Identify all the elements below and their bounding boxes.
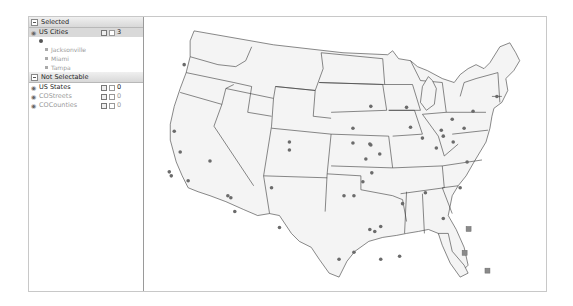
select-icon[interactable] [101,85,107,91]
layer-panel: Selected ◉ US Cities 3 Jacksonville Miam… [29,17,144,291]
layer-symbol [29,37,143,45]
us-states-layer [170,31,519,277]
feature-icon [45,57,48,60]
not-selectable-section-header[interactable]: Not Selectable [29,72,143,83]
feature-item[interactable]: Jacksonville [29,45,143,54]
visibility-eye-icon[interactable]: ◉ [31,85,37,90]
visibility-eye-icon[interactable]: ◉ [31,94,37,99]
section-label: Not Selectable [41,72,88,82]
point-symbol-icon [39,39,43,43]
section-label: Selected [41,17,69,27]
layer-row-costreets[interactable]: ◉ COStreets 0 [29,92,143,101]
selection-count: 3 [117,28,123,37]
visibility-eye-icon[interactable]: ◉ [31,103,37,108]
collapse-icon[interactable] [31,19,38,26]
selection-count: 0 [117,101,123,110]
layer-name: COCounties [39,101,101,110]
feature-item[interactable]: Tampa [29,63,143,72]
feature-item[interactable]: Miami [29,54,143,63]
selection-count: 0 [117,83,123,92]
table-icon[interactable] [109,103,115,109]
table-icon[interactable] [109,30,115,36]
layer-name: US States [39,83,101,92]
layer-name: COStreets [39,92,101,101]
selection-count: 0 [117,92,123,101]
feature-icon [45,48,48,51]
table-icon[interactable] [109,85,115,91]
layer-row-us-states[interactable]: ◉ US States 0 [29,83,143,92]
selected-section-header[interactable]: Selected [29,17,143,28]
layer-row-cocounties[interactable]: ◉ COCounties 0 [29,101,143,110]
table-icon[interactable] [109,94,115,100]
layer-row-us-cities[interactable]: ◉ US Cities 3 [29,28,143,37]
selected-city-miami [485,268,490,273]
selected-city-tampa [462,250,467,255]
select-icon[interactable] [101,94,107,100]
feature-icon [45,66,48,69]
map-canvas[interactable] [144,17,546,291]
layer-name: US Cities [39,28,101,37]
selected-city-jacksonville [466,226,471,231]
collapse-icon[interactable] [31,74,38,81]
visibility-eye-icon[interactable]: ◉ [31,30,37,35]
app-window: Selected ◉ US Cities 3 Jacksonville Miam… [28,16,547,292]
select-icon[interactable] [101,103,107,109]
select-icon[interactable] [101,30,107,36]
us-map[interactable] [144,17,546,291]
